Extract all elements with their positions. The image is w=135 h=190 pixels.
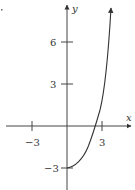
x-tick-label-3: 3 [99, 137, 105, 148]
corner-dot [1, 9, 3, 11]
x-axis-label: x [126, 112, 132, 123]
function-graph: −3 3 6 3 −3 x y [0, 0, 135, 190]
y-tick-label-6: 6 [50, 37, 56, 48]
y-axis-label: y [71, 3, 78, 14]
y-tick-label-3: 3 [50, 79, 56, 90]
y-tick-label-neg3: −3 [44, 163, 59, 174]
x-tick-label-neg3: −3 [25, 137, 40, 148]
